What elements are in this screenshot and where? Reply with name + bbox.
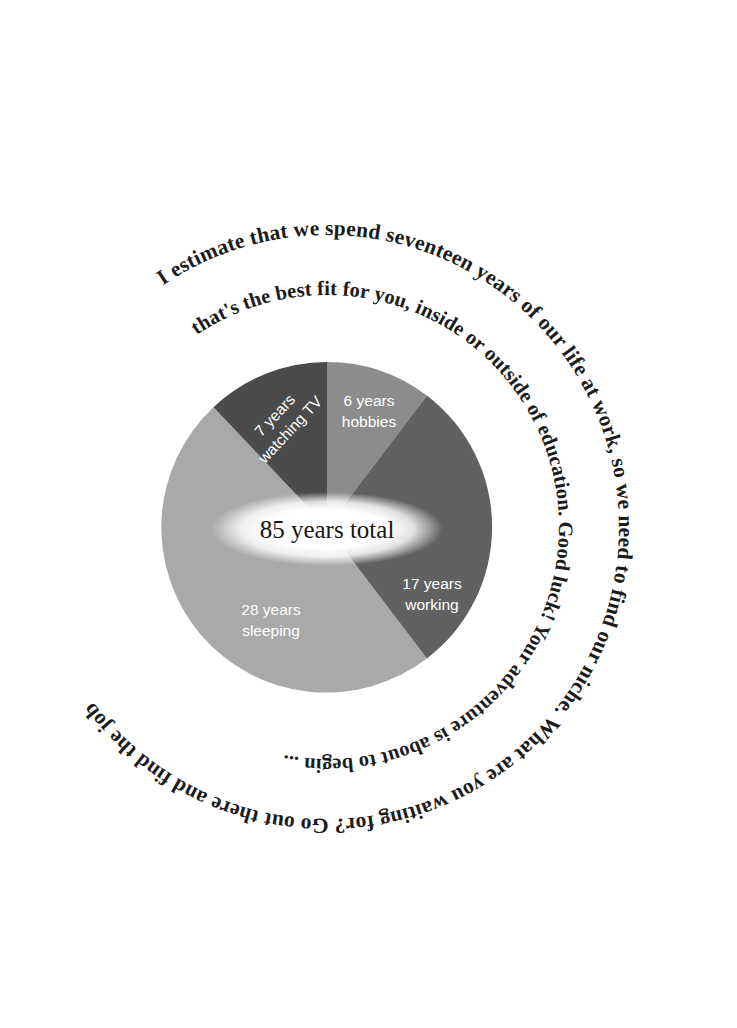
slice-label-sleeping-name: sleeping	[242, 622, 300, 639]
slice-label-hobbies-name: hobbies	[342, 413, 397, 430]
poster-canvas: 6 years hobbies 17 years working 28 year…	[0, 0, 737, 1028]
slice-label-hobbies-value: 6 years	[344, 392, 395, 409]
slice-label-working-name: working	[404, 596, 458, 613]
center-total-label: 85 years total	[260, 516, 395, 543]
slice-label-sleeping-value: 28 years	[241, 601, 301, 618]
pie-chart: 6 years hobbies 17 years working 28 year…	[161, 362, 492, 693]
slice-label-working-value: 17 years	[402, 575, 462, 592]
circular-infographic: 6 years hobbies 17 years working 28 year…	[0, 0, 737, 1028]
